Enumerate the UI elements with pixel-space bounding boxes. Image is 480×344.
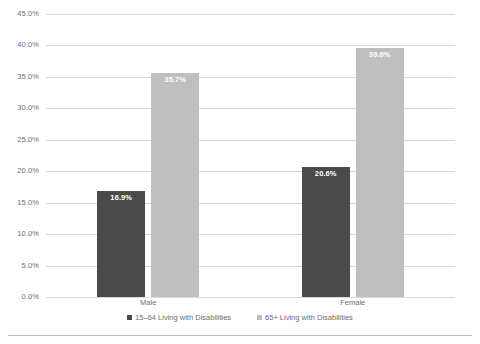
y-tick-label: 45.0% xyxy=(17,10,39,18)
bar: 35.7% xyxy=(151,73,199,298)
bar-value-label: 20.6% xyxy=(302,170,350,178)
legend-swatch-icon xyxy=(127,315,132,320)
y-tick-label: 25.0% xyxy=(17,136,39,144)
y-axis: 45.0%40.0%35.0%30.0%25.0%20.0%15.0%10.0%… xyxy=(0,0,46,297)
gridline xyxy=(46,14,455,15)
bar-value-label: 39.6% xyxy=(356,51,404,59)
legend-label: 65+ Living with Disabilities xyxy=(265,314,353,322)
bar-value-label: 16.9% xyxy=(97,194,145,202)
gridline xyxy=(46,297,455,298)
chart-legend: 15–64 Living with Disabilities65+ Living… xyxy=(0,314,480,322)
y-tick-label: 0.0% xyxy=(22,293,40,301)
x-tick-label: Female xyxy=(340,299,365,307)
y-tick-label: 5.0% xyxy=(22,262,40,270)
y-tick-label: 40.0% xyxy=(17,42,39,50)
y-tick-label: 20.0% xyxy=(17,167,39,175)
y-tick-label: 15.0% xyxy=(17,199,39,207)
x-tick-label: Male xyxy=(140,299,156,307)
chart-frame-rule xyxy=(8,335,472,336)
y-tick-label: 10.0% xyxy=(17,230,39,238)
bar-chart: 45.0%40.0%35.0%30.0%25.0%20.0%15.0%10.0%… xyxy=(0,0,480,344)
legend-item[interactable]: 15–64 Living with Disabilities xyxy=(127,314,231,322)
legend-item[interactable]: 65+ Living with Disabilities xyxy=(257,314,353,322)
y-tick-label: 35.0% xyxy=(17,73,39,81)
bar: 16.9% xyxy=(97,191,145,297)
plot-area: 16.9%35.7%20.6%39.6% xyxy=(46,14,455,297)
legend-label: 15–64 Living with Disabilities xyxy=(135,314,231,322)
gridline xyxy=(46,45,455,46)
bar: 20.6% xyxy=(302,167,350,297)
y-tick-label: 30.0% xyxy=(17,105,39,113)
x-axis: MaleFemale xyxy=(46,299,455,313)
legend-swatch-icon xyxy=(257,315,262,320)
bar-value-label: 35.7% xyxy=(151,76,199,84)
bar: 39.6% xyxy=(356,48,404,297)
